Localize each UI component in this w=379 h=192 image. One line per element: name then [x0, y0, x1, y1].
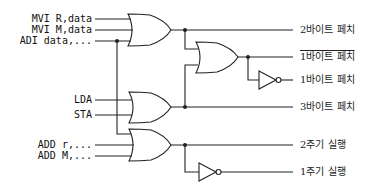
junction-dot — [183, 28, 187, 32]
wire-or3-to-or2 — [185, 65, 198, 107]
junction-dot — [183, 143, 187, 147]
or-gate-3 — [129, 92, 171, 123]
input-label-sta: STA — [74, 109, 92, 121]
wire-adi-branch — [117, 41, 131, 134]
or-gate-1 — [128, 14, 171, 46]
output-label-fetch2: 2바이트 페치 — [300, 24, 355, 36]
junction-dot — [246, 55, 250, 59]
junction-dot — [183, 105, 187, 109]
or-gate-4 — [129, 129, 171, 161]
input-label-adi: ADI data,... — [20, 35, 92, 47]
not-gate-2 — [199, 163, 216, 181]
wire-or4-to-not2 — [185, 145, 199, 172]
output-label-fetch1-complement: 1바이트 페치 — [300, 51, 355, 63]
logic-circuit-diagram: MVI R,data MVI M,data ADI data,... LDA S… — [0, 0, 379, 192]
output-label-fetch1: 1바이트 페치 — [300, 74, 355, 86]
wire-or2-to-not1 — [248, 57, 259, 80]
not-gate-1 — [259, 71, 276, 89]
output-label-exec2: 2주기 실행 — [300, 139, 346, 151]
output-label-exec1: 1주기 실행 — [300, 166, 346, 178]
junction-dot — [115, 39, 119, 43]
input-label-add-m: ADD M,... — [38, 150, 92, 162]
or-gate-2 — [196, 42, 238, 73]
wire-or1-to-or2 — [185, 30, 198, 49]
input-label-lda: LDA — [74, 94, 92, 106]
output-label-fetch3: 3바이트 페치 — [300, 101, 355, 113]
